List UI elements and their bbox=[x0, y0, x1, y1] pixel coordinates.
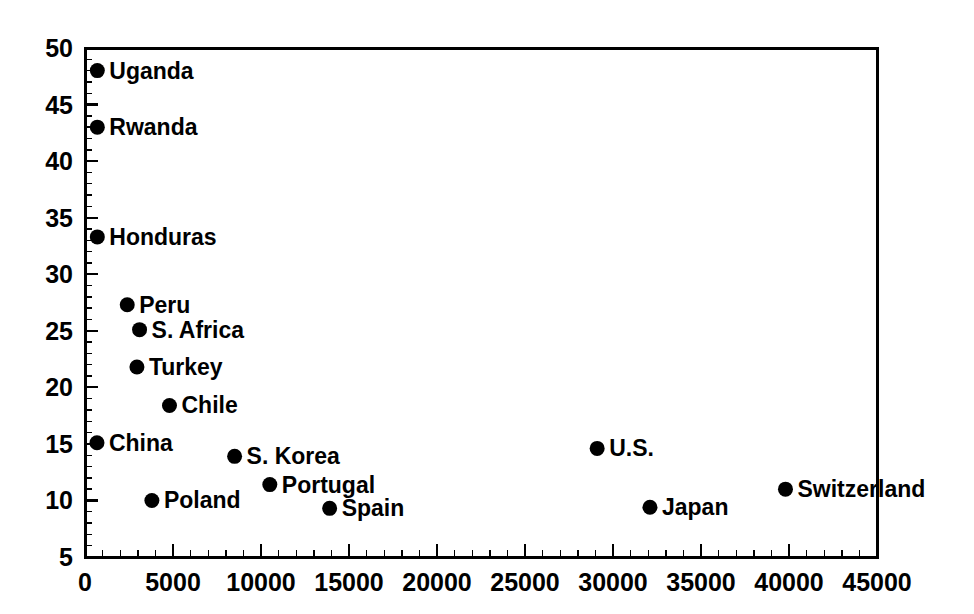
y-tick-label: 10 bbox=[45, 486, 73, 514]
data-point-label: Poland bbox=[164, 487, 241, 513]
x-tick-label: 15000 bbox=[314, 568, 384, 596]
x-tick-label: 0 bbox=[78, 568, 92, 596]
data-point-label: Japan bbox=[662, 494, 728, 520]
y-tick-label: 5 bbox=[59, 543, 73, 571]
y-tick-label: 25 bbox=[45, 317, 73, 345]
data-point-label: U.S. bbox=[609, 435, 654, 461]
data-point-marker bbox=[162, 398, 177, 413]
data-point-marker bbox=[322, 501, 337, 516]
data-point-label: China bbox=[109, 430, 173, 456]
data-point-marker bbox=[90, 229, 105, 244]
data-point-label: Spain bbox=[342, 495, 405, 521]
data-point-marker bbox=[227, 449, 242, 464]
data-point-label: Switzerland bbox=[797, 476, 925, 502]
y-tick-label: 15 bbox=[45, 430, 73, 458]
x-tick-label: 20000 bbox=[402, 568, 472, 596]
data-point-marker bbox=[129, 359, 144, 374]
data-point-marker bbox=[590, 441, 605, 456]
data-point-label: Chile bbox=[181, 392, 237, 418]
data-point-label: Peru bbox=[139, 292, 190, 318]
data-point-marker bbox=[89, 435, 104, 450]
data-point-label: Rwanda bbox=[109, 114, 197, 140]
data-point-label: S. Korea bbox=[247, 443, 341, 469]
x-tick-label: 10000 bbox=[226, 568, 296, 596]
y-tick-label: 50 bbox=[45, 34, 73, 62]
x-tick-label: 5000 bbox=[145, 568, 201, 596]
data-point-label: Uganda bbox=[109, 58, 194, 84]
data-point-marker bbox=[132, 322, 147, 337]
y-tick-label: 20 bbox=[45, 373, 73, 401]
chart-canvas: 0500010000150002000025000300003500040000… bbox=[0, 0, 974, 614]
data-point-marker bbox=[778, 482, 793, 497]
y-tick-label: 40 bbox=[45, 147, 73, 175]
data-point: Honduras bbox=[90, 224, 217, 250]
x-tick-label: 45000 bbox=[842, 568, 912, 596]
data-point-marker bbox=[262, 477, 277, 492]
x-tick-label: 35000 bbox=[666, 568, 736, 596]
data-point-label: Honduras bbox=[109, 224, 216, 250]
data-point-label: Turkey bbox=[149, 354, 223, 380]
data-point-marker bbox=[144, 493, 159, 508]
scatter-chart: 0500010000150002000025000300003500040000… bbox=[0, 0, 974, 614]
data-point-label: S. Africa bbox=[152, 317, 245, 343]
data-point-marker bbox=[90, 63, 105, 78]
data-point-label: Portugal bbox=[282, 472, 375, 498]
x-tick-label: 25000 bbox=[490, 568, 560, 596]
data-point: Switzerland bbox=[778, 476, 925, 502]
y-tick-label: 35 bbox=[45, 204, 73, 232]
data-point-marker bbox=[120, 297, 135, 312]
x-tick-label: 30000 bbox=[578, 568, 648, 596]
x-tick-label: 40000 bbox=[754, 568, 824, 596]
data-point-marker bbox=[90, 120, 105, 135]
data-point-marker bbox=[642, 500, 657, 515]
y-tick-label: 30 bbox=[45, 260, 73, 288]
y-tick-label: 45 bbox=[45, 91, 73, 119]
